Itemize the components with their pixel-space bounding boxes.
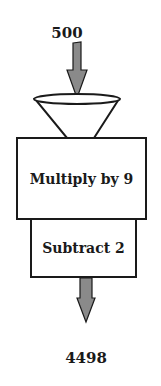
input-value: 500 xyxy=(37,24,97,42)
output-arrow-icon xyxy=(77,278,95,322)
step-box-subtract: Subtract 2 xyxy=(30,218,137,278)
input-arrow-icon xyxy=(67,42,87,98)
step-box-multiply: Multiply by 9 xyxy=(16,137,147,220)
output-value: 4498 xyxy=(55,349,117,367)
step-label: Multiply by 9 xyxy=(30,171,133,187)
funnel-icon xyxy=(34,94,120,138)
step-label: Subtract 2 xyxy=(42,240,125,256)
